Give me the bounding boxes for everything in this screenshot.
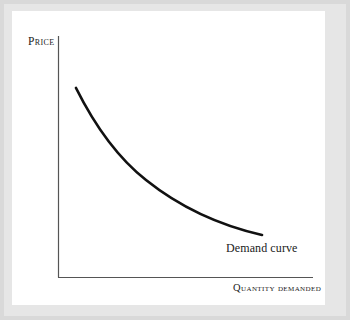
demand-curve-path	[76, 88, 262, 235]
x-axis-label: Quantity demanded	[233, 283, 321, 294]
demand-curve-figure: Price Quantity demanded Demand curve	[0, 0, 350, 320]
demand-curve-annotation: Demand curve	[226, 242, 298, 254]
y-axis-label: Price	[28, 36, 55, 48]
chart-plot-area	[0, 0, 350, 320]
